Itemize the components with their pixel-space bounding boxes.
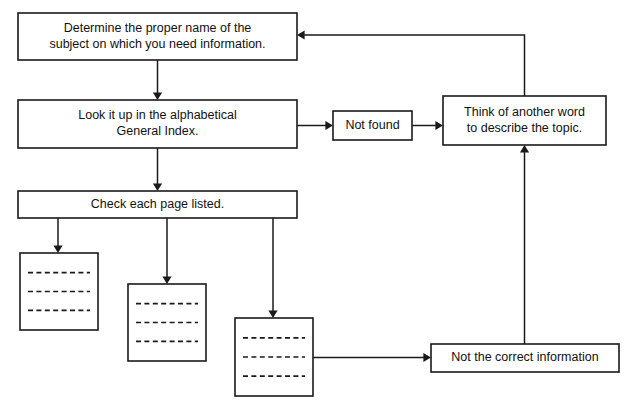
page-result-1 — [20, 253, 98, 330]
not-found-box: Not found — [333, 111, 412, 140]
connector-lookup-to-notfound — [297, 121, 333, 130]
connector-determine-to-lookup — [153, 60, 162, 100]
connector-notcorrect-to-think — [520, 145, 529, 344]
determine-subject-name-box: Determine the proper name of thesubject … — [18, 13, 297, 60]
flowchart-canvas: Determine the proper name of thesubject … — [0, 0, 631, 415]
connector-think-to-determine-feedback — [297, 30, 525, 96]
node-label: Not found — [345, 118, 399, 132]
process-node-layer: Determine the proper name of thesubject … — [18, 13, 619, 372]
node-label: Check each page listed. — [91, 197, 224, 211]
page-result-3 — [235, 318, 313, 396]
connector-page3-to-notcorrect — [313, 353, 431, 362]
not-the-correct-information-box: Not the correct information — [431, 344, 619, 372]
connector-check-to-page3 — [268, 218, 277, 318]
connector-lookup-to-check — [153, 148, 162, 191]
look-up-general-index-box: Look it up in the alphabeticalGeneral In… — [18, 100, 297, 148]
page-result-2 — [128, 284, 206, 361]
connector-check-to-page2 — [162, 218, 171, 284]
connector-check-to-page1 — [53, 218, 62, 253]
node-label: Not the correct information — [451, 350, 598, 364]
think-of-another-word-box: Think of another wordto describe the top… — [443, 96, 606, 145]
connector-notfound-to-think — [412, 121, 443, 130]
check-each-page-box: Check each page listed. — [18, 191, 297, 218]
flowchart-diagram: Determine the proper name of thesubject … — [0, 0, 631, 415]
